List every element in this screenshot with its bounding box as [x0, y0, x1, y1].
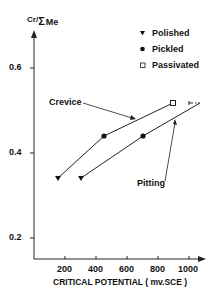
y-tick-0.6: 0.6 — [9, 62, 22, 72]
legend-pickled-icon — [140, 47, 145, 52]
x-tick-200: 200 — [57, 264, 72, 274]
passivated-marker-icon — [171, 101, 176, 106]
y-tick-0.4: 0.4 — [9, 147, 22, 157]
x-tick-600: 600 — [119, 264, 134, 274]
crevice-annotation: Crevice — [49, 97, 82, 107]
y-axis-label: Cr/ΣMe — [27, 15, 58, 27]
legend-passivated-icon — [141, 63, 146, 68]
pitting-annotation: Pitting — [137, 178, 165, 188]
legend-polished-label: Polished — [152, 28, 190, 38]
polished-marker-icon — [78, 176, 84, 181]
x-tick-800: 800 — [150, 264, 165, 274]
crevice-series-line — [58, 103, 173, 178]
pitting-leader-line — [165, 123, 175, 181]
y-tick-0.2: 0.2 — [9, 232, 22, 242]
pickled-marker-icon — [101, 133, 106, 138]
pickled-marker-icon — [140, 133, 145, 138]
y-axis-arrow-icon — [31, 30, 37, 38]
chart-plot-area — [0, 0, 217, 303]
legend-passivated-label: Passivated — [152, 60, 199, 70]
x-tick-400: 400 — [88, 264, 103, 274]
legend-pickled-label: Pickled — [152, 44, 184, 54]
legend-polished-icon — [140, 31, 145, 36]
x-axis-arrow-icon — [198, 256, 206, 262]
polished-marker-icon — [55, 176, 61, 181]
x-axis-label: CRITICAL POTENTIAL ( mv.SCE ) — [53, 277, 187, 287]
x-tick-1000: 1000 — [178, 264, 198, 274]
crevice-leader-line — [83, 103, 132, 118]
